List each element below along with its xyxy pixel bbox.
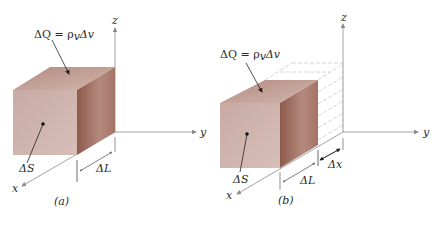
cube-front-face [13,90,77,155]
z-axis-label-a: z [111,14,118,27]
charge-label-b: ΔQ = ρvΔv [220,48,281,63]
length-label-a: ΔL [95,162,111,175]
surface-label-a: ΔS [18,162,35,175]
x-axis-label-b: x [226,189,233,202]
cube-front-face [220,103,280,168]
figure-a: ΔQ = ρvΔv ΔS ΔL z y x (a) [12,14,207,208]
displacement-label: Δx [327,158,343,171]
z-axis-label-b: z [340,11,347,24]
y-axis-label-a: y [199,126,207,139]
caption-b: (b) [278,194,294,207]
surface-label-b: ΔS [232,173,249,186]
caption-a: (a) [54,195,69,208]
figure-b: ΔQ = ρvΔv ΔS ΔL Δx z y x (b) [220,11,430,207]
length-label-b: ΔL [299,174,315,187]
diagram-canvas: ΔQ = ρvΔv ΔS ΔL z y x (a) [0,0,445,226]
x-axis-label-a: x [12,182,19,195]
y-axis-label-b: y [422,126,430,139]
charge-label-a: ΔQ = ρvΔv [34,28,95,43]
